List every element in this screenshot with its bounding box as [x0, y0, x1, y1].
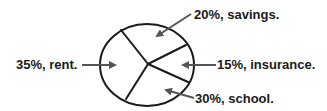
label-school: 30%, school.: [195, 92, 274, 105]
label-insurance: 15%, insurance.: [217, 58, 315, 71]
label-rent: 35%, rent.: [16, 58, 77, 71]
arrow-school: [166, 90, 194, 98]
arrow-savings: [157, 14, 191, 36]
callout-arrows: [82, 14, 216, 98]
slice-dividers: [121, 30, 188, 99]
label-savings: 20%, savings.: [194, 8, 279, 21]
